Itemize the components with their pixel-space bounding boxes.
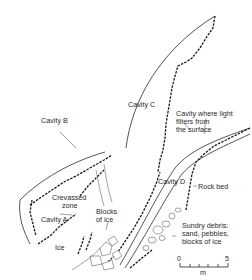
scale-end: 5 — [225, 254, 229, 263]
label-cavity-b: Cavity B — [41, 116, 68, 125]
scale-start: 0 — [177, 254, 181, 263]
label-debris-3: blocks of ice — [182, 237, 222, 246]
scale-unit: m — [200, 268, 206, 277]
label-blocks-2: of ice — [96, 215, 113, 224]
ice-blocks — [72, 236, 122, 270]
label-light-3: the surface — [176, 125, 212, 134]
scale-bar: 0 5 m — [177, 254, 229, 277]
label-crevassed-2: zone — [62, 201, 78, 210]
label-ice: Ice — [55, 243, 65, 252]
label-rock-bed: Rock bed — [198, 182, 228, 191]
ice-cavity-diagram: Cavity B Cavity C Cavity where light fil… — [0, 0, 252, 280]
label-cavity-a: Cavity A — [41, 215, 68, 224]
label-cavity-c: Cavity C — [128, 100, 155, 109]
cavity-d-outline — [108, 128, 250, 268]
label-cavity-d: Cavity D — [158, 177, 185, 186]
cavity-c-outline — [126, 16, 215, 172]
